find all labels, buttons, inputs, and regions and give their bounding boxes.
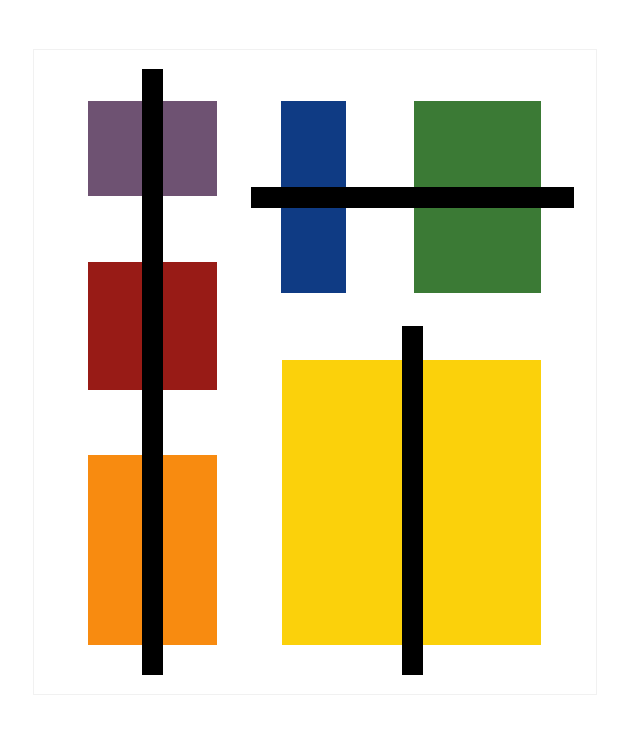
right-vertical-bar [402,326,423,675]
left-vertical-bar [142,69,163,675]
top-horizontal-bar [251,187,574,208]
